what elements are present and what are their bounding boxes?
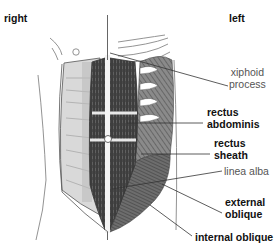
- label-external-oblique-line1: external: [225, 196, 265, 208]
- linea-alba: [105, 55, 110, 233]
- label-rectus-abdominis-line2: abdominis: [207, 118, 260, 130]
- label-rectus-abdominis-line1: rectus: [207, 106, 260, 118]
- orientation-label-left: left: [229, 12, 245, 24]
- label-linea-alba: linea alba: [224, 165, 269, 177]
- label-rectus-sheath-line2: sheath: [214, 149, 248, 161]
- label-xiphoid-line2: process: [229, 78, 266, 90]
- label-external-oblique: external oblique: [225, 196, 265, 220]
- nipple-mark: [73, 49, 79, 55]
- label-xiphoid-process: xiphoid process: [229, 66, 266, 90]
- label-internal-oblique: internal oblique: [195, 231, 273, 243]
- orientation-label-right: right: [4, 12, 27, 24]
- label-rectus-abdominis: rectus abdominis: [207, 106, 260, 130]
- umbilicus: [105, 136, 112, 143]
- label-rectus-sheath-line1: rectus: [214, 137, 248, 149]
- label-rectus-sheath: rectus sheath: [214, 137, 248, 161]
- label-external-oblique-line2: oblique: [225, 208, 265, 220]
- label-xiphoid-line1: xiphoid: [229, 66, 266, 78]
